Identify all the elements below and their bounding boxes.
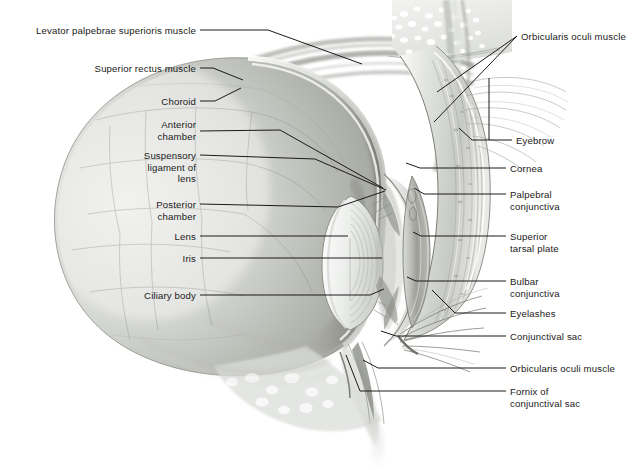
label-line: tarsal plate: [510, 243, 559, 255]
label-line: Lens: [175, 231, 196, 243]
label-iris: Iris: [183, 253, 196, 265]
label-anterior-chamber: Anteriorchamber: [158, 119, 196, 142]
label-orbicularis-oculi-muscle-lower: Orbicularis oculi muscle: [510, 363, 615, 375]
label-line: Eyelashes: [510, 308, 556, 320]
leader-orbicularis-oculi-muscle-lower: [363, 360, 506, 368]
label-superior-rectus-muscle: Superior rectus muscle: [95, 63, 196, 75]
label-line: Choroid: [161, 96, 196, 108]
label-line: Anterior: [158, 119, 196, 131]
label-conjunctival-sac: Conjunctival sac: [510, 331, 582, 343]
label-line: Fornix of: [510, 386, 580, 398]
label-line: conjunctiva: [510, 201, 560, 213]
label-line: Bulbar: [510, 276, 560, 288]
label-line: Levator palpebrae superioris muscle: [36, 25, 196, 37]
label-choroid: Choroid: [161, 96, 196, 108]
label-cornea: Cornea: [510, 163, 542, 175]
label-bulbar-conjunctiva: Bulbarconjunctiva: [510, 276, 560, 299]
label-line: Superior rectus muscle: [95, 63, 196, 75]
label-line: Conjunctival sac: [510, 331, 582, 343]
label-line: chamber: [158, 131, 196, 143]
label-eyelashes: Eyelashes: [510, 308, 556, 320]
label-line: Superior: [510, 231, 559, 243]
figure-canvas: Levator palpebrae superioris muscleSuper…: [0, 0, 642, 470]
label-levator-palpebrae-superioris-muscle: Levator palpebrae superioris muscle: [36, 25, 196, 37]
label-superior-tarsal-plate: Superiortarsal plate: [510, 231, 559, 254]
label-line: ligament of: [144, 162, 196, 174]
label-line: conjunctival sac: [510, 398, 580, 410]
label-line: Orbicularis oculi muscle: [521, 31, 626, 43]
label-line: conjunctiva: [510, 288, 560, 300]
label-line: Palpebral: [510, 189, 560, 201]
label-line: chamber: [156, 211, 196, 223]
label-line: Iris: [183, 253, 196, 265]
label-line: Orbicularis oculi muscle: [510, 363, 615, 375]
label-line: Cornea: [510, 163, 542, 175]
label-line: Ciliary body: [144, 290, 196, 302]
label-palpebral-conjunctiva: Palpebralconjunctiva: [510, 189, 560, 212]
label-line: Posterior: [156, 199, 196, 211]
label-line: Eyebrow: [516, 135, 554, 147]
label-fornix-of-conjunctival-sac: Fornix ofconjunctival sac: [510, 386, 580, 409]
label-line: lens: [144, 173, 196, 185]
label-line: Suspensory: [144, 150, 196, 162]
label-orbicularis-oculi-muscle-upper: Orbicularis oculi muscle: [521, 31, 626, 43]
label-ciliary-body: Ciliary body: [144, 290, 196, 302]
label-posterior-chamber: Posteriorchamber: [156, 199, 196, 222]
label-eyebrow: Eyebrow: [516, 135, 554, 147]
label-lens: Lens: [175, 231, 196, 243]
label-suspensory-ligament-of-lens: Suspensoryligament oflens: [144, 150, 196, 185]
